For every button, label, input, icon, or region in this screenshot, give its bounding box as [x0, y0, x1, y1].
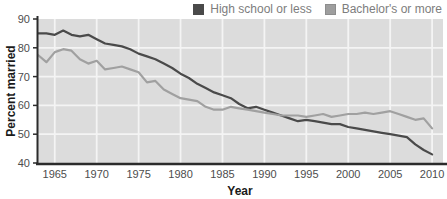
- legend: High school or less Bachelor's or more: [193, 3, 442, 15]
- y-tick-label: 80: [18, 42, 30, 54]
- y-tick-label: 40: [18, 157, 30, 169]
- x-tick-label: 2005: [378, 168, 402, 180]
- plot-svg: 4050607080901965197019751980198519901995…: [0, 0, 447, 199]
- x-tick-label: 1970: [84, 168, 108, 180]
- x-tick-label: 2000: [336, 168, 360, 180]
- x-tick-label: 1980: [168, 168, 192, 180]
- x-tick-label: 1990: [252, 168, 276, 180]
- legend-swatch-bachelors: [325, 4, 336, 15]
- legend-swatch-high-school: [193, 4, 204, 15]
- legend-item-high-school: High school or less: [193, 3, 311, 15]
- y-tick-label: 90: [18, 13, 30, 25]
- x-tick-label: 1975: [126, 168, 150, 180]
- x-tick-label: 1995: [294, 168, 318, 180]
- legend-label-bachelors: Bachelor's or more: [342, 3, 442, 15]
- y-tick-label: 50: [18, 128, 30, 140]
- x-tick-label: 2010: [420, 168, 444, 180]
- chart-figure: 4050607080901965197019751980198519901995…: [0, 0, 447, 199]
- legend-label-high-school: High school or less: [210, 3, 311, 15]
- x-tick-label: 1965: [43, 168, 67, 180]
- y-axis-title: Percent married: [4, 45, 18, 136]
- y-tick-label: 60: [18, 99, 30, 111]
- legend-item-bachelors: Bachelor's or more: [325, 3, 442, 15]
- x-axis-title: Year: [227, 184, 252, 198]
- x-tick-label: 1985: [210, 168, 234, 180]
- y-tick-label: 70: [18, 71, 30, 83]
